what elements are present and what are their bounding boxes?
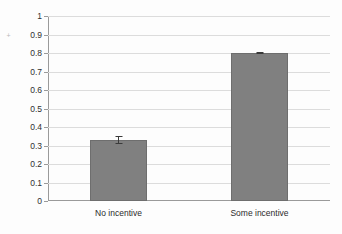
bars-layer: No incentiveSome incentive xyxy=(48,16,330,201)
error-bar-cap-top xyxy=(256,52,263,53)
y-tick-label: 0.1 xyxy=(30,178,42,188)
y-tick-label: 0.6 xyxy=(30,85,42,95)
y-tick-label: 0.2 xyxy=(30,159,42,169)
chart-figure: + Percent learning HIV results 00.10.20.… xyxy=(0,0,342,234)
x-category-label: Some incentive xyxy=(230,208,288,218)
error-bar xyxy=(115,136,122,143)
error-bar xyxy=(256,52,263,55)
y-tick-mark xyxy=(44,201,48,202)
scan-artifact-speck: + xyxy=(6,33,11,38)
y-tick-label: 0 xyxy=(37,196,42,206)
bar[interactable] xyxy=(90,140,147,201)
y-tick-label: 1 xyxy=(37,11,42,21)
error-bar-cap-bottom xyxy=(115,143,122,144)
y-tick-label: 0.5 xyxy=(30,104,42,114)
bar-group[interactable]: No incentive xyxy=(90,16,147,201)
x-category-label: No incentive xyxy=(95,208,142,218)
bar-group[interactable]: Some incentive xyxy=(231,16,288,201)
error-bar-cap-bottom xyxy=(256,53,263,54)
y-tick-label: 0.9 xyxy=(30,30,42,40)
y-tick-label: 0.7 xyxy=(30,67,42,77)
y-tick-label: 0.4 xyxy=(30,122,42,132)
y-tick-label: 0.3 xyxy=(30,141,42,151)
error-bar-cap-top xyxy=(115,136,122,137)
plot-area: 00.10.20.30.40.50.60.70.80.91 No incenti… xyxy=(48,16,330,201)
bar[interactable] xyxy=(231,53,288,201)
y-tick-label: 0.8 xyxy=(30,48,42,58)
